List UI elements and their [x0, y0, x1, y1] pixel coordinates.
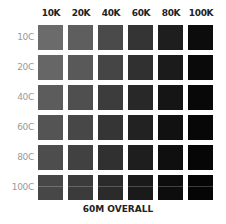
swatch-cell [158, 25, 183, 50]
swatch-cell [68, 145, 93, 170]
column-label: 10K [36, 8, 66, 18]
swatch-cell [38, 145, 63, 170]
column-label: 20K [66, 8, 96, 18]
swatch-cell [38, 85, 63, 110]
swatch-cell [98, 85, 123, 110]
column-label: 60K [126, 8, 156, 18]
swatch-cell [158, 175, 183, 200]
chart-title: 60M OVERALL [0, 204, 226, 214]
swatch-cell [68, 175, 93, 200]
swatch-cell [68, 25, 93, 50]
row-label: 40C [0, 92, 34, 102]
column-label: 40K [96, 8, 126, 18]
swatch-cell [158, 85, 183, 110]
swatch-cell [128, 115, 153, 140]
swatch-cell [158, 115, 183, 140]
swatch-cell [38, 55, 63, 80]
swatch-cell [158, 145, 183, 170]
column-label: 80K [156, 8, 186, 18]
swatch-cell [128, 55, 153, 80]
row-label: 80C [0, 152, 34, 162]
swatch-cell [158, 55, 183, 80]
swatch-cell [38, 25, 63, 50]
swatch-cell [38, 115, 63, 140]
swatch-cell [128, 175, 153, 200]
swatch-cell [68, 55, 93, 80]
row-label: 10C [0, 32, 34, 42]
swatch-cell [128, 25, 153, 50]
swatch-cell [98, 175, 123, 200]
swatch-cell [128, 85, 153, 110]
column-label: 100K [186, 8, 216, 18]
swatch-cell [188, 115, 213, 140]
row-label: 20C [0, 62, 34, 72]
row-label: 100C [0, 182, 34, 192]
row-label: 60C [0, 122, 34, 132]
swatch-cell [68, 85, 93, 110]
swatch-cell [128, 145, 153, 170]
swatch-cell [188, 145, 213, 170]
swatch-cell [98, 145, 123, 170]
swatch-cell [188, 55, 213, 80]
swatch-cell [188, 85, 213, 110]
swatch-cell [68, 115, 93, 140]
swatch-cell [188, 25, 213, 50]
swatch-cell [98, 25, 123, 50]
swatch-cell [38, 175, 63, 200]
swatch-cell [98, 55, 123, 80]
swatch-cell [98, 115, 123, 140]
swatch-cell [188, 175, 213, 200]
